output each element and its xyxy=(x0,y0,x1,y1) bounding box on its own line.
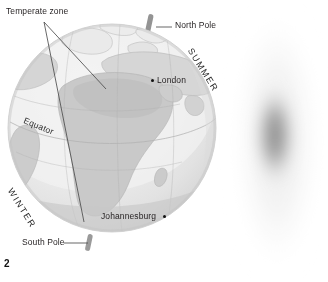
label-temperate-zone: Temperate zone xyxy=(6,6,68,16)
label-north-pole: North Pole xyxy=(175,20,216,30)
city-label-johannesburg: Johannesburg xyxy=(101,211,156,221)
light-beam-ellipse xyxy=(236,8,318,274)
figure-number: 2 xyxy=(4,258,10,269)
label-south-pole: South Pole xyxy=(22,237,65,247)
earth-axis-rod-south xyxy=(85,234,93,252)
figure-canvas: Temperate zone North Pole South Pole Equ… xyxy=(0,0,328,282)
city-label-london: London xyxy=(157,75,186,85)
